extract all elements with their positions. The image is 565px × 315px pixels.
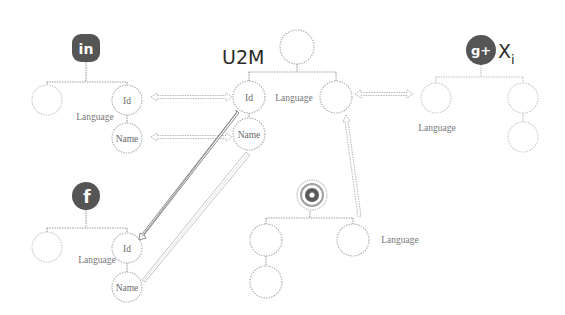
googleplus-x-subscript: i [511, 52, 515, 67]
googleplus-right-child-node [508, 122, 538, 152]
googleplus-tree: g+ X i Language [418, 35, 538, 152]
linkedin-name-label: Name [116, 134, 139, 144]
u2m-language-label: Language [275, 93, 312, 103]
instagram-language-label: Language [381, 235, 418, 245]
facebook-icon: f [72, 182, 100, 210]
instagram-left-child-node [250, 266, 282, 298]
facebook-left-node [32, 232, 62, 262]
googleplus-x-label: X [498, 40, 511, 62]
instagram-left-node [250, 224, 282, 256]
linkedin-left-node [32, 85, 62, 115]
linkedin-icon: in [72, 34, 100, 62]
mapping-arrow-facebook-id [139, 110, 239, 240]
googleplus-right-node [508, 83, 538, 113]
googleplus-language-label: Language [418, 123, 455, 133]
google-plus-icon: g+ [466, 35, 496, 65]
u2m-tree: U2M Id Language Name [222, 30, 352, 150]
facebook-id-label: Id [123, 244, 131, 254]
u2m-root-node [280, 30, 314, 64]
googleplus-glyph: g+ [471, 43, 491, 58]
mapping-arrow-linkedin-id [151, 93, 232, 101]
instagram-tree: Language [250, 180, 419, 298]
facebook-name-label: Name [116, 283, 139, 293]
linkedin-language-label: Language [76, 112, 113, 122]
instagram-icon [297, 180, 327, 210]
facebook-tree: f Id Language Name [32, 182, 142, 302]
facebook-language-label: Language [78, 255, 115, 265]
linkedin-tree: in Id Language Name [32, 34, 142, 153]
u2m-right-node [320, 81, 352, 113]
mapping-arrow-googleplus [355, 90, 413, 98]
mapping-arrow-instagram [343, 115, 361, 217]
instagram-right-node [337, 224, 369, 256]
schema-mapping-diagram: in Id Language Name U2M Id Language Name… [0, 0, 565, 315]
u2m-id-label: Id [245, 93, 253, 103]
u2m-name-label: Name [238, 130, 261, 140]
facebook-glyph: f [83, 187, 91, 207]
googleplus-left-node [421, 83, 451, 113]
u2m-title: U2M [222, 46, 264, 68]
linkedin-glyph: in [79, 41, 94, 57]
linkedin-id-label: Id [123, 96, 131, 106]
